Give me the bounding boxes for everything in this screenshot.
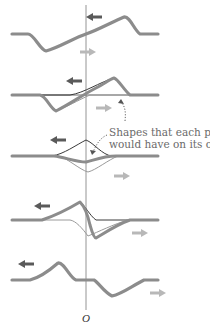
right-arrow-icon [96,104,112,112]
frame-1 [12,13,158,56]
left-arrow-icon [66,77,82,85]
right-arrow-icon [132,229,148,237]
combined-pulse [12,263,158,296]
right-arrow-icon [80,48,96,56]
right-moving-pulse [12,156,158,172]
left-arrow-icon [18,260,34,268]
left-arrow-icon [34,202,50,210]
right-arrow-icon [150,289,166,297]
frame-5 [12,260,166,297]
annotation-line-1: Shapes that each pulse [109,126,210,138]
annotation-label: Shapes that each pulse would have on its… [109,126,210,150]
frame-4 [12,202,158,238]
superposition-diagram [0,0,210,330]
left-arrow-icon [50,136,66,144]
left-arrow-icon [86,13,102,21]
right-moving-pulse [12,95,158,110]
combined-pulse [12,17,158,51]
annotation-line-2: would have on its own [109,138,210,150]
origin-label: O [82,312,90,324]
frame-2 [12,77,158,112]
combined-pulse [12,78,158,111]
right-arrow-icon [114,172,130,180]
combined-pulse [12,156,158,162]
